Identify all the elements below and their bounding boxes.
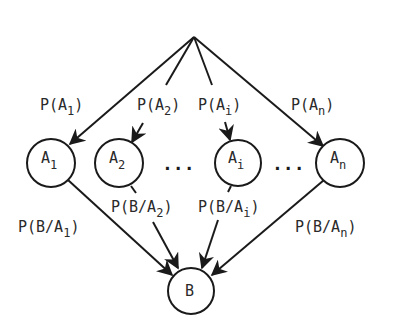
edge-ai-b-lower — [202, 220, 218, 268]
edge-root-ai-lower — [225, 122, 230, 140]
bayes-tree-diagram: A1 A2 Ai An B ... ... P(A1) P(A2) P(Ai) … — [0, 0, 393, 331]
label-likelihood-ai: P(B/Ai) — [198, 198, 259, 220]
node-ai: Ai — [215, 140, 261, 186]
edge-ai-b-upper — [228, 186, 231, 192]
edge-a2-b-upper — [131, 186, 136, 193]
label-likelihood-a2: P(B/A2) — [111, 198, 172, 220]
label-prior-an: P(An) — [291, 96, 334, 118]
edge-root-a2-upper — [166, 37, 194, 85]
svg-text:B: B — [185, 282, 194, 300]
label-prior-a2: P(A2) — [137, 96, 180, 118]
node-a2: A2 — [95, 139, 143, 187]
ellipsis-right: ... — [272, 153, 305, 174]
edge-root-a2-lower — [132, 123, 143, 142]
label-prior-ai: P(Ai) — [198, 96, 241, 118]
node-b: B — [168, 268, 214, 314]
label-likelihood-a1: P(B/A1) — [18, 218, 79, 240]
label-prior-a1: P(A1) — [40, 96, 83, 118]
node-an: An — [316, 139, 364, 187]
node-a1: A1 — [27, 139, 75, 187]
edge-root-a1 — [70, 37, 194, 144]
edge-root-an — [194, 37, 323, 146]
ellipsis-left: ... — [162, 153, 195, 174]
label-likelihood-an: P(B/An) — [295, 218, 356, 240]
